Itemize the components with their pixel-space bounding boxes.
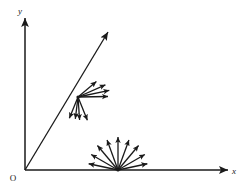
vector-arrow xyxy=(78,96,108,97)
figure-canvas: y x O xyxy=(0,0,240,189)
origin-label: O xyxy=(10,173,17,183)
diagonal-ray-group xyxy=(25,32,108,170)
vector-arrow xyxy=(78,85,105,97)
vector-arrow xyxy=(107,140,118,170)
lower-vector-fan xyxy=(89,137,148,172)
diagonal-ray xyxy=(25,32,108,170)
fan-vertex-dot xyxy=(116,168,119,171)
x-axis-label: x xyxy=(231,166,236,176)
vector-arrow xyxy=(118,140,129,170)
fan-vertex-dot xyxy=(76,95,79,98)
y-axis-label: y xyxy=(17,6,22,16)
vector-fan-figure: y x O xyxy=(0,0,240,189)
